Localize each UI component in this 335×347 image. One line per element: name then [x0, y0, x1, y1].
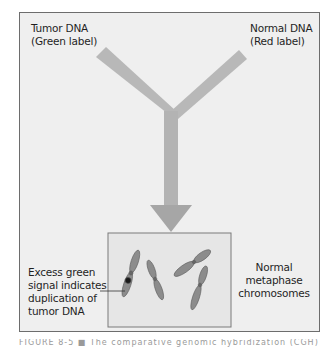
tumor-dna-subtitle: (Green label): [31, 35, 97, 48]
down-arrowhead-icon: [150, 205, 192, 232]
normal-dna-title: Normal DNA: [250, 22, 312, 35]
tumor-dna-label: Tumor DNA (Green label): [31, 22, 97, 48]
figure-caption: FIGURE 8-5 ■ The comparative genomic hyb…: [19, 339, 335, 347]
excess-line-4: tumor DNA: [28, 305, 107, 318]
excess-line-1: Excess green: [28, 266, 107, 279]
metaphase-line-3: chromosomes: [238, 287, 310, 300]
normal-dna-label: Normal DNA (Red label): [250, 22, 312, 48]
metaphase-line-1: Normal: [238, 261, 310, 274]
y-arrow-icon: [96, 47, 247, 232]
excess-line-3: duplication of: [28, 292, 107, 305]
metaphase-label: Normal metaphase chromosomes: [238, 261, 310, 300]
excess-signal-label: Excess green signal indicates duplicatio…: [28, 266, 107, 318]
tumor-dna-title: Tumor DNA: [31, 22, 97, 35]
normal-dna-subtitle: (Red label): [250, 35, 312, 48]
metaphase-line-2: metaphase: [238, 274, 310, 287]
excess-line-2: signal indicates: [28, 279, 107, 292]
